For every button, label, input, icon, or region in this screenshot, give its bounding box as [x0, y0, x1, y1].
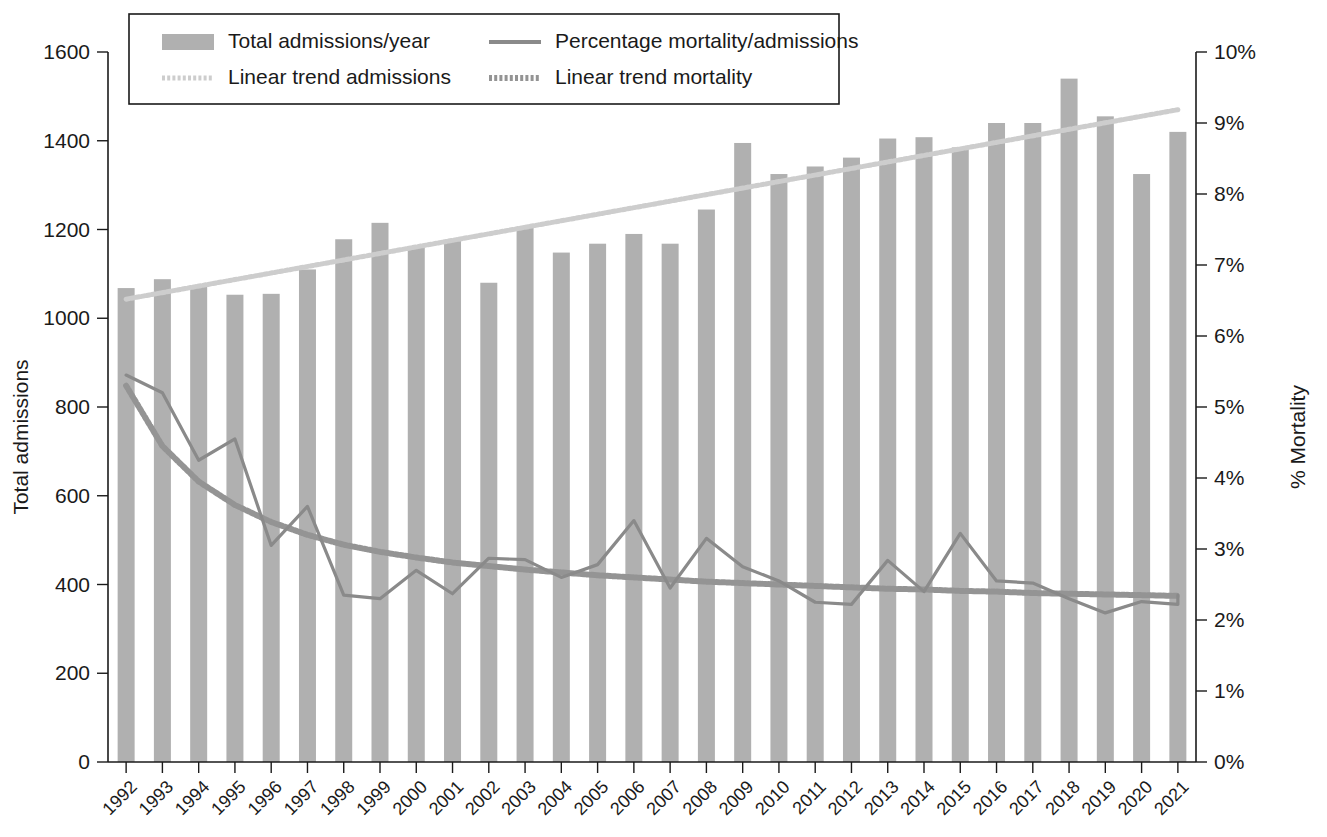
bar-2002: [480, 283, 497, 762]
bar-2019: [1097, 116, 1114, 762]
right-tick-label: 6%: [1214, 324, 1244, 347]
right-tick-label: 0%: [1214, 750, 1244, 773]
left-tick-label: 1600: [43, 40, 90, 63]
bar-2007: [662, 244, 679, 762]
legend-label: Percentage mortality/admissions: [555, 29, 858, 52]
legend-label: Linear trend mortality: [555, 65, 753, 88]
left-tick-label: 1000: [43, 306, 90, 329]
left-tick-label: 400: [55, 573, 90, 596]
left-tick-label: 600: [55, 484, 90, 507]
legend-swatch-bar-icon: [162, 34, 214, 50]
bar-2017: [1024, 123, 1041, 762]
left-tick-label: 200: [55, 661, 90, 684]
left-tick-label: 1200: [43, 218, 90, 241]
bar-2011: [807, 166, 824, 762]
right-tick-label: 1%: [1214, 679, 1244, 702]
legend-label: Linear trend admissions: [228, 65, 451, 88]
chart-container: 16001400120010008006004002000 10%9%8%7%6…: [0, 0, 1327, 837]
right-tick-label: 5%: [1214, 395, 1244, 418]
bar-2000: [408, 247, 425, 762]
bar-2004: [553, 253, 570, 762]
bar-1995: [226, 295, 243, 762]
bar-2009: [734, 143, 751, 762]
left-tick-label: 800: [55, 395, 90, 418]
bar-2003: [517, 227, 534, 762]
right-axis-title: % Mortality: [1286, 385, 1309, 489]
right-tick-label: 3%: [1214, 537, 1244, 560]
bar-2012: [843, 158, 860, 762]
chart-legend: Total admissions/yearPercentage mortalit…: [129, 14, 858, 104]
left-tick-label: 1400: [43, 129, 90, 152]
bar-2018: [1061, 79, 1078, 762]
right-tick-label: 8%: [1214, 182, 1244, 205]
bar-2014: [916, 137, 933, 762]
bar-2013: [879, 139, 896, 762]
bar-2001: [444, 241, 461, 762]
bar-2005: [589, 244, 606, 762]
bar-1999: [372, 223, 389, 762]
bar-2008: [698, 210, 715, 762]
bar-1993: [154, 279, 171, 762]
right-tick-label: 4%: [1214, 466, 1244, 489]
bar-2015: [952, 147, 969, 762]
right-tick-label: 9%: [1214, 111, 1244, 134]
left-axis-title: Total admissions: [9, 359, 32, 514]
bar-2021: [1169, 132, 1186, 762]
bar-2016: [988, 123, 1005, 762]
bar-1997: [299, 269, 316, 762]
bar-2006: [625, 234, 642, 762]
admissions-mortality-chart: 16001400120010008006004002000 10%9%8%7%6…: [0, 0, 1327, 837]
legend-label: Total admissions/year: [228, 29, 430, 52]
bar-1992: [118, 288, 135, 762]
bar-2010: [770, 174, 787, 762]
right-tick-label: 2%: [1214, 608, 1244, 631]
bar-1994: [190, 286, 207, 762]
bar-2020: [1133, 174, 1150, 762]
right-tick-label: 10%: [1214, 40, 1256, 63]
legend-box: [129, 14, 839, 104]
bar-1998: [335, 239, 352, 762]
left-tick-label: 0: [78, 750, 90, 773]
right-tick-label: 7%: [1214, 253, 1244, 276]
